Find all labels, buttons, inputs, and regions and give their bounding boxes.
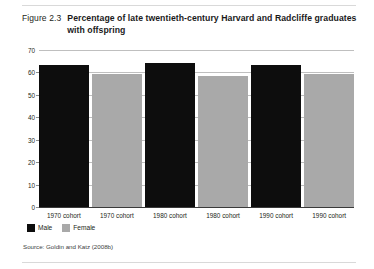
- y-axis-tick-label: 20: [28, 159, 35, 166]
- y-axis-tick-label: 60: [28, 69, 35, 76]
- bar-female-1970: [92, 74, 142, 207]
- source-note: Source: Goldin and Katz (2008b): [23, 243, 113, 251]
- y-axis-tick-label: 10: [28, 181, 35, 188]
- figure-number: Figure 2.3: [22, 13, 67, 25]
- bar-female-1990: [304, 74, 354, 207]
- figure-caption: Figure 2.3 Percentage of late twentieth-…: [22, 13, 358, 36]
- figure-title: Percentage of late twentieth-century Har…: [67, 13, 358, 36]
- y-axis-tick-label: 70: [28, 47, 35, 54]
- legend-swatch-female: [62, 224, 70, 232]
- bar-male-1990: [251, 65, 301, 207]
- y-axis-tick-label: 30: [28, 136, 35, 143]
- x-axis-tick-label: 1990 cohort: [295, 211, 364, 220]
- y-axis-tick-mark: [36, 207, 39, 208]
- figure-container: Figure 2.3 Percentage of late twentieth-…: [0, 0, 374, 269]
- legend-label: Female: [73, 224, 95, 232]
- legend-item-female: Female: [62, 224, 95, 232]
- bar-male-1980: [145, 63, 195, 207]
- x-axis-line: [39, 207, 354, 208]
- bar-female-1980: [198, 76, 248, 207]
- chart-bars: [39, 50, 354, 207]
- bottom-divider: [22, 262, 356, 263]
- chart-plot-area: 010203040506070: [39, 50, 354, 207]
- legend-label: Male: [38, 224, 52, 232]
- y-axis-tick-label: 40: [28, 114, 35, 121]
- top-divider: [22, 5, 356, 6]
- bar-male-1970: [39, 65, 89, 207]
- x-axis-labels: 1970 cohort1970 cohort1980 cohort1980 co…: [39, 211, 354, 223]
- y-axis-tick-label: 50: [28, 91, 35, 98]
- legend-swatch-male: [27, 224, 35, 232]
- chart-legend: MaleFemale: [27, 224, 105, 232]
- legend-item-male: Male: [27, 224, 52, 232]
- y-axis-tick-label: 0: [31, 204, 35, 211]
